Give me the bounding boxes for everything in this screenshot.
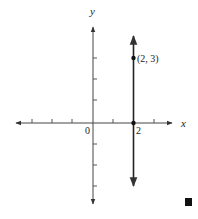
point-label-2-3: (2, 3): [137, 53, 159, 65]
x-tick-label-2: 2: [136, 125, 141, 136]
coordinate-graph: y x 0 2 (2, 3): [0, 0, 198, 219]
end-of-proof-square: [185, 198, 192, 206]
y-axis-ticks: [93, 58, 97, 186]
point-2-3: [131, 56, 135, 60]
origin-label: 0: [85, 125, 90, 136]
x-axis-label: x: [180, 117, 186, 129]
y-axis-label: y: [89, 5, 95, 17]
